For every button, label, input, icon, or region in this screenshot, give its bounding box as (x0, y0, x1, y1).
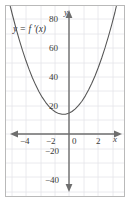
axes-layer (6, 6, 124, 196)
y-axis-arrow-down (66, 184, 73, 192)
figure-container: 80 60 40 20 −20 −40 −4 −2 0 2 x y y = f … (0, 0, 131, 207)
x-axis-name-label: x (113, 135, 117, 144)
y-tick-label-neg40: −40 (45, 176, 59, 185)
x-tick-label-neg2: −2 (46, 137, 56, 146)
y-axis-name-label: y (64, 8, 68, 17)
x-tick-label-2: 2 (96, 137, 101, 146)
x-tick-label-neg4: −4 (20, 137, 30, 146)
curve-equation-label: y = f ′(x) (13, 25, 46, 35)
y-tick-label-40: 40 (49, 73, 58, 82)
y-tick-label-neg20: −20 (45, 147, 59, 156)
x-tick-label-0: 0 (72, 137, 77, 146)
y-tick-label-20: 20 (49, 102, 58, 111)
y-tick-label-60: 60 (49, 44, 58, 53)
y-tick-label-80: 80 (49, 15, 58, 24)
x-axis-arrow-left (10, 131, 18, 138)
